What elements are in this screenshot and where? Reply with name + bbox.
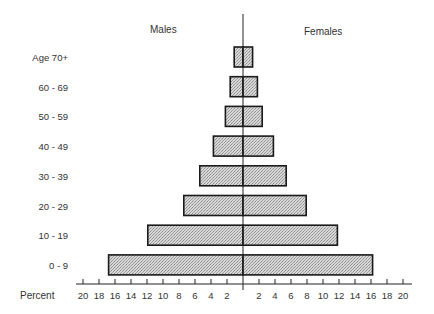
x-tick-label: 8 [176, 290, 181, 301]
x-axis-label: Percent [20, 290, 55, 301]
bar-females [243, 47, 253, 67]
category-label: 50 - 59 [38, 111, 68, 122]
x-tick-label: 4 [272, 290, 277, 301]
bar-males [148, 225, 243, 245]
bar-males [109, 255, 243, 275]
x-tick-label: 2 [224, 290, 229, 301]
bar-females [243, 225, 337, 245]
x-tick-label: 14 [350, 290, 361, 301]
x-tick-label: 8 [304, 290, 309, 301]
category-label: 20 - 29 [38, 201, 68, 212]
x-tick-label: 4 [208, 290, 213, 301]
x-tick-label: 14 [126, 290, 137, 301]
x-tick-label: 10 [318, 290, 329, 301]
x-tick-label: 10 [158, 290, 169, 301]
x-tick-label: 18 [94, 290, 105, 301]
x-tick-label: 20 [398, 290, 409, 301]
bar-males [230, 77, 243, 97]
bar-females [243, 255, 373, 275]
x-tick-label: 18 [382, 290, 393, 301]
males-label: Males [150, 24, 177, 35]
category-label: Age 70+ [32, 52, 68, 63]
bar-males [184, 196, 243, 216]
bar-males [200, 166, 243, 186]
bar-females [243, 196, 306, 216]
females-label: Females [304, 26, 342, 37]
x-tick-label: 16 [366, 290, 377, 301]
population-pyramid-chart: Males Females Age 70+60 - 6950 - 5940 - … [0, 0, 434, 314]
category-label: 10 - 19 [38, 230, 68, 241]
x-tick-label: 6 [288, 290, 293, 301]
x-tick-label: 2 [256, 290, 261, 301]
category-label: 30 - 39 [38, 171, 68, 182]
x-tick-label: 12 [334, 290, 345, 301]
category-label: 0 - 9 [49, 260, 68, 271]
bar-males [225, 106, 243, 126]
x-tick-label: 16 [110, 290, 121, 301]
bar-females [243, 77, 257, 97]
category-label: 40 - 49 [38, 141, 68, 152]
bar-males [234, 47, 243, 67]
bar-females [243, 106, 262, 126]
bar-males [213, 136, 243, 156]
x-tick-label: 12 [142, 290, 153, 301]
x-tick-label: 20 [78, 290, 89, 301]
bar-females [243, 136, 273, 156]
x-tick-label: 6 [192, 290, 197, 301]
category-label: 60 - 69 [38, 82, 68, 93]
bar-females [243, 166, 286, 186]
